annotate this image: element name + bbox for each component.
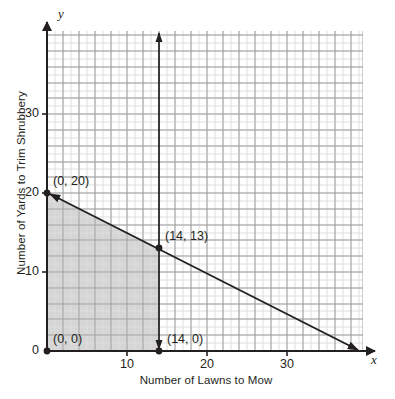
y-axis-title: Number of Yards to Trim Shrubbery xyxy=(15,23,27,343)
x-axis-title: Number of Lawns to Mow xyxy=(48,374,364,386)
point-0-20-marker xyxy=(44,190,51,197)
x-tick-label-30: 30 xyxy=(267,357,307,371)
y-tick-label-20: 20 xyxy=(0,185,39,199)
point-14-0-marker xyxy=(156,348,163,355)
annotation-0-20: (0, 20) xyxy=(53,174,89,188)
y-tick-label-10: 10 xyxy=(0,264,39,278)
annotation-14-13: (14, 13) xyxy=(165,229,208,243)
y-tick-label-30: 30 xyxy=(0,106,39,120)
point-14-13-marker xyxy=(156,245,163,252)
x-tick-label-10: 10 xyxy=(107,357,147,371)
y-axis-letter: y xyxy=(58,6,64,22)
point-0-0-marker xyxy=(44,348,51,355)
x-tick-label-20: 20 xyxy=(187,357,227,371)
annotation-14-0: (14, 0) xyxy=(167,332,203,346)
x-axis-letter: x xyxy=(371,352,377,368)
annotation-0-0: (0, 0) xyxy=(53,332,82,346)
coordinate-plane-chart: y x Number of Yards to Trim Shrubbery Nu… xyxy=(0,0,395,399)
y-tick-label-origin: 0 xyxy=(0,343,39,357)
